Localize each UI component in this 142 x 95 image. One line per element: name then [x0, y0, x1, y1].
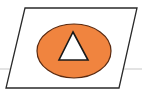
diagram-svg — [0, 0, 142, 95]
diagram-canvas — [0, 0, 142, 95]
